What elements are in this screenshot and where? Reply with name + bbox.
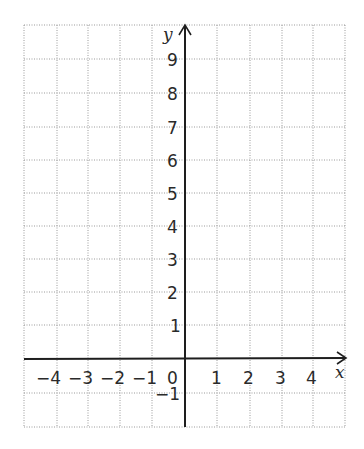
- y-tick-label: 6: [167, 151, 178, 171]
- y-tick-label: 5: [167, 184, 178, 204]
- y-tick-label: 3: [167, 250, 178, 270]
- y-tick-labels: 9 8 7 6 5 4 3 2 1 −1: [155, 50, 181, 404]
- coordinate-grid: x y −4 −3 −2 −1 0 1 2 3 4 9 8 7 6 5 4 3 …: [0, 0, 364, 449]
- x-tick-label: 1: [211, 368, 222, 388]
- x-tick-label: −1: [132, 368, 157, 388]
- x-tick-label: 3: [275, 368, 286, 388]
- x-tick-label: −2: [100, 368, 125, 388]
- x-tick-label: 4: [306, 368, 317, 388]
- y-tick-label: 8: [167, 84, 178, 104]
- x-tick-label: −4: [36, 368, 61, 388]
- x-tick-label: 2: [243, 368, 254, 388]
- y-tick-label: 7: [167, 118, 178, 138]
- y-axis-label: y: [162, 24, 173, 44]
- y-tick-label: 9: [167, 50, 178, 70]
- y-tick-label: −1: [155, 384, 180, 404]
- x-tick-label: −3: [68, 368, 93, 388]
- y-tick-label: 1: [170, 316, 181, 336]
- x-axis-label: x: [335, 362, 345, 382]
- y-tick-label: 4: [167, 217, 178, 237]
- y-tick-label: 2: [167, 283, 178, 303]
